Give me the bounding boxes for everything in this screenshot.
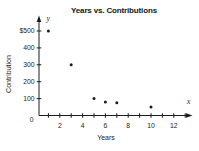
y-axis-title: Contribution: [5, 55, 12, 93]
data-point: [70, 63, 73, 66]
data-point: [115, 101, 118, 104]
y-tick-label: $500: [19, 27, 34, 34]
y-tick-label: 400: [23, 44, 35, 51]
y-axis-letter: y: [46, 14, 51, 23]
data-point: [93, 97, 96, 100]
y-tick-label: 100: [23, 95, 35, 102]
x-tick-label: 8: [126, 122, 130, 129]
x-tick-label: 12: [170, 122, 178, 129]
x-axis-title: Years: [97, 134, 115, 141]
plot-area: 24681012100200300400$5000yxYearsContribu…: [0, 0, 199, 151]
x-axis-letter: x: [186, 97, 191, 106]
data-point: [47, 30, 50, 33]
y-axis-arrow-icon: [37, 16, 42, 23]
x-tick-label: 6: [104, 122, 108, 129]
x-axis-arrow-icon: [186, 113, 193, 118]
data-point: [150, 106, 153, 109]
y-tick-label: 300: [23, 61, 35, 68]
data-point: [104, 100, 107, 103]
x-tick-label: 4: [81, 122, 85, 129]
y-tick-label: 200: [23, 78, 35, 85]
x-tick-label: 2: [58, 122, 62, 129]
origin-label: 0: [30, 116, 34, 123]
scatter-chart-figure: Years vs. Contributions 2468101210020030…: [0, 0, 199, 151]
x-tick-label: 10: [147, 122, 155, 129]
